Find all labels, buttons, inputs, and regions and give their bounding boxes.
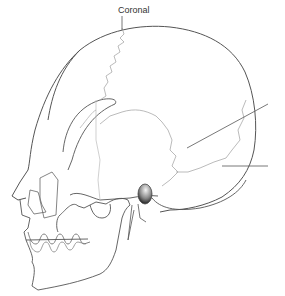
coronoid-process — [90, 204, 111, 218]
mandible — [32, 198, 130, 290]
occlusal-line — [26, 239, 88, 240]
nasal-bone — [28, 190, 46, 214]
maxilla-eye-socket-front — [40, 172, 58, 218]
frontal-profile — [12, 50, 80, 200]
orbit — [63, 99, 116, 170]
mastoid-process — [138, 184, 152, 204]
cranium-outline — [48, 26, 256, 212]
styloid-process — [128, 204, 146, 240]
upper-teeth — [28, 232, 90, 244]
occipital-base — [152, 180, 246, 210]
skull-diagram — [0, 0, 285, 296]
coronal-label: Coronal — [118, 5, 150, 15]
lambdoid-suture — [176, 100, 246, 172]
squamosal-suture — [100, 110, 178, 186]
coronal-suture — [100, 28, 124, 100]
